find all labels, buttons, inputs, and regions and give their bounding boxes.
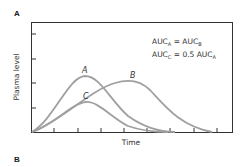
plasma-level-chart: A B C AUCA = AUCB AUCC = 0.5 AUCA Time P… — [0, 0, 242, 167]
y-axis-label: Plasma level — [12, 53, 21, 100]
curve-a — [32, 76, 175, 132]
curve-c-label: C — [83, 92, 89, 101]
curve-a-label: A — [81, 66, 87, 75]
annotation-auc-a-equals-b: AUCA = AUCB — [152, 37, 202, 47]
curve-b-label: B — [130, 71, 136, 80]
annotation-auc-c-half-a: AUCC = 0.5 AUCA — [152, 50, 217, 60]
curve-b — [32, 81, 212, 132]
y-axis-ticks — [32, 34, 37, 108]
x-axis-label: Time — [121, 138, 141, 147]
